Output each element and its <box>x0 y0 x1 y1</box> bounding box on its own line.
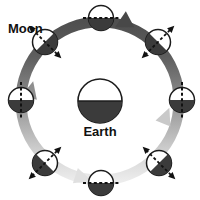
moon-dark-half <box>89 18 114 31</box>
moon-orbit-diagram: Moon Earth <box>0 0 200 200</box>
earth-label: Earth <box>83 124 116 139</box>
moon-label: Moon <box>8 21 43 36</box>
earth-group <box>78 79 122 123</box>
moon-axis-arrow-icon <box>140 144 149 153</box>
moon-axis-arrow-icon <box>139 51 148 60</box>
moon-axis-arrow-icon <box>26 172 35 181</box>
earth-dark-half <box>78 101 122 123</box>
moon-dark-half <box>89 183 114 196</box>
moon-position-bottom-right <box>140 144 177 181</box>
diagram-canvas: Moon Earth <box>0 0 200 200</box>
moon-position-top-right <box>139 23 176 60</box>
